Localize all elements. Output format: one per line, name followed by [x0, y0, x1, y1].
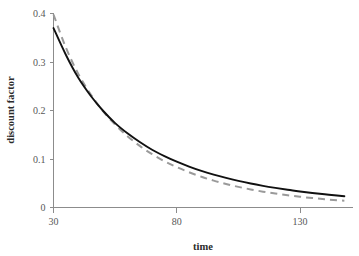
y-axis-ticks: 00.10.20.30.4 — [33, 8, 54, 213]
series-solid-curve — [54, 28, 345, 196]
y-tick-label: 0.3 — [33, 57, 46, 68]
y-axis-title: discount factor — [5, 76, 16, 144]
x-axis-title: time — [193, 241, 213, 252]
y-tick-label: 0.1 — [33, 154, 46, 165]
discount-factor-line-chart: 00.10.20.30.4 3080130 time discount fact… — [0, 0, 359, 256]
x-tick-label: 80 — [172, 216, 182, 227]
chart-figure: 00.10.20.30.4 3080130 time discount fact… — [0, 0, 359, 256]
series-dashed-curve — [54, 14, 345, 200]
x-tick-label: 130 — [293, 216, 308, 227]
y-tick-label: 0.2 — [33, 105, 46, 116]
x-axis-ticks: 3080130 — [49, 208, 308, 227]
y-tick-label: 0.4 — [33, 8, 46, 19]
x-tick-label: 30 — [49, 216, 59, 227]
y-tick-label: 0 — [41, 202, 46, 213]
